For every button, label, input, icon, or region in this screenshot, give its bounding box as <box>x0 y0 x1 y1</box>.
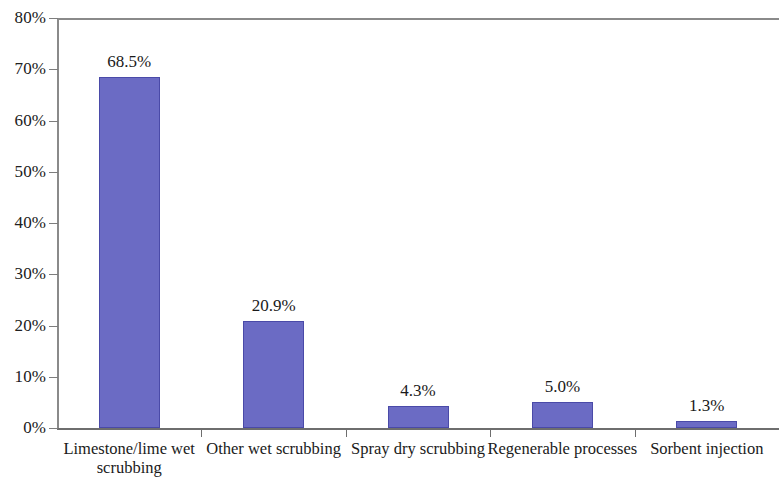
x-axis-category-label: Sorbent injection <box>622 439 779 458</box>
y-axis-tick-label: 40% <box>0 214 46 231</box>
y-axis-tick <box>49 121 58 122</box>
y-axis-tick-label: 70% <box>0 60 46 77</box>
x-axis-line <box>57 428 779 430</box>
category-label-line: scrubbing <box>44 458 214 477</box>
y-axis-tick-label: 30% <box>0 265 46 282</box>
y-axis-tick <box>49 326 58 327</box>
plot-top-border <box>57 18 779 20</box>
y-axis-tick-label: 10% <box>0 368 46 385</box>
bar-value-label: 20.9% <box>214 297 334 315</box>
bar <box>99 77 160 428</box>
y-axis-tick-label: 0% <box>0 419 46 436</box>
y-axis-tick <box>49 69 58 70</box>
y-axis-tick <box>49 274 58 275</box>
x-axis-tick <box>635 429 636 437</box>
bar <box>388 406 449 428</box>
y-axis-tick <box>49 18 58 19</box>
y-axis-tick-label: 80% <box>0 9 46 26</box>
y-axis-tick-label: 60% <box>0 112 46 129</box>
x-axis-tick <box>346 429 347 437</box>
bar <box>532 402 593 428</box>
y-axis-tick-label: 50% <box>0 163 46 180</box>
y-axis-tick <box>49 377 58 378</box>
bar <box>676 421 737 428</box>
y-axis-line <box>57 18 59 430</box>
bar-value-label: 1.3% <box>647 397 767 415</box>
bar-value-label: 4.3% <box>358 382 478 400</box>
x-axis-tick <box>490 429 491 437</box>
y-axis-tick <box>49 223 58 224</box>
bar-value-label: 5.0% <box>502 378 622 396</box>
bar <box>243 321 304 428</box>
category-label-line: Sorbent injection <box>622 439 779 458</box>
y-axis-tick <box>49 428 58 429</box>
bar-value-label: 68.5% <box>69 53 189 71</box>
y-axis-tick-label: 20% <box>0 317 46 334</box>
x-axis-tick <box>201 429 202 437</box>
y-axis-tick <box>49 172 58 173</box>
